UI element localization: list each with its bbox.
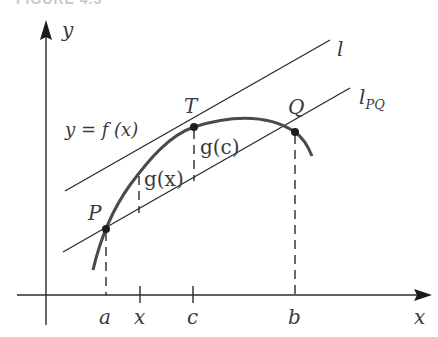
tick-label-b: b [288, 305, 301, 329]
tick-label-c: c [187, 305, 198, 329]
y-axis-arrow-icon [40, 20, 52, 40]
axes [17, 20, 432, 325]
point-Q [291, 128, 299, 136]
tangent-line-label: l [337, 37, 343, 61]
function-label: y = f (x) [64, 119, 138, 140]
point-T-label: T [184, 94, 199, 118]
secant-line-label: lPQ [359, 85, 385, 112]
point-T [190, 123, 198, 131]
tick-label-x: x [134, 305, 145, 329]
point-Q-label: Q [288, 95, 304, 119]
y-axis-label: y [61, 18, 74, 42]
gc-label: g(c) [200, 135, 240, 159]
mean-value-theorem-diagram: y x l lPQ y = f (x) P T Q g(x) g(c) a x … [0, 0, 438, 337]
gx-label: g(x) [144, 167, 184, 191]
point-P [102, 225, 110, 233]
point-P-label: P [87, 201, 102, 225]
secant-label-subscript: PQ [364, 97, 385, 112]
tick-label-a: a [99, 305, 111, 329]
x-axis-label: x [414, 305, 425, 329]
